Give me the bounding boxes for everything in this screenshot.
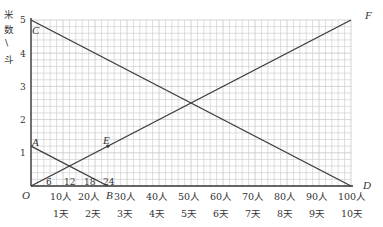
label-B: B <box>106 189 113 201</box>
x-tick-people-1: 10人 <box>50 189 72 203</box>
y-axis-title-char-4: 斗 <box>4 52 14 66</box>
x-tick-people-9: 90人 <box>306 189 328 203</box>
y-tick-2: 2 <box>20 115 26 125</box>
small-tick-18: 18 <box>84 177 95 187</box>
x-tick-days-8: 8天 <box>277 206 293 220</box>
label-E: E <box>103 134 110 146</box>
x-tick-people-10: 100人 <box>338 189 366 203</box>
y-axis-title-char-2: 数 <box>4 22 14 36</box>
y-axis-title-char-1: 米 <box>4 7 14 21</box>
x-tick-days-2: 2天 <box>85 206 101 220</box>
x-tick-days-7: 7天 <box>245 206 261 220</box>
label-A: A <box>32 136 39 148</box>
small-tick-6: 6 <box>46 177 52 187</box>
x-tick-days-3: 3天 <box>117 206 133 220</box>
x-tick-days-1: 1天 <box>53 206 69 220</box>
y-tick-1: 1 <box>20 148 26 158</box>
x-tick-people-8: 80人 <box>274 189 296 203</box>
x-tick-days-4: 4天 <box>149 206 165 220</box>
x-tick-people-5: 50人 <box>178 189 200 203</box>
x-tick-people-6: 60人 <box>210 189 232 203</box>
label-F: F <box>365 9 372 21</box>
x-tick-days-5: 5天 <box>181 206 197 220</box>
x-tick-days-9: 9天 <box>309 206 325 220</box>
x-tick-days-10: 10天 <box>341 206 363 220</box>
x-tick-people-4: 40人 <box>146 189 168 203</box>
small-tick-24: 24 <box>103 177 114 187</box>
y-tick-4: 4 <box>20 49 26 59</box>
x-tick-people-2: 20人 <box>78 189 100 203</box>
y-axis-title-char-3: \ <box>5 37 8 48</box>
y-tick-3: 3 <box>20 82 26 92</box>
y-tick-5: 5 <box>20 15 26 25</box>
label-C: C <box>32 24 39 36</box>
small-tick-12: 12 <box>64 177 75 187</box>
x-tick-people-7: 70人 <box>242 189 264 203</box>
x-tick-people-3: 30人 <box>114 189 136 203</box>
x-tick-days-6: 6天 <box>213 206 229 220</box>
label-origin: O <box>22 189 30 201</box>
